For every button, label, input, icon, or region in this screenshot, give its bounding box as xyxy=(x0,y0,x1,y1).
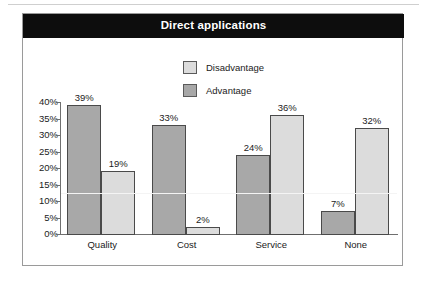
legend-label-advantage: Advantage xyxy=(206,85,251,96)
bar-value-label: 32% xyxy=(347,115,397,126)
white-gridline xyxy=(61,193,397,194)
bar-value-label: 19% xyxy=(93,158,143,169)
bar-value-label: 7% xyxy=(313,198,363,209)
bar-service-advantage xyxy=(236,155,270,235)
bar-none-disadvantage xyxy=(355,128,389,235)
bar-service-disadvantage xyxy=(270,115,304,235)
bar-none-advantage xyxy=(321,211,355,235)
y-axis-line xyxy=(60,102,61,235)
legend-swatch-advantage-icon xyxy=(183,84,197,97)
bar-value-label: 33% xyxy=(144,112,194,123)
legend-label-disadvantage: Disadvantage xyxy=(206,62,264,73)
legend-entry-disadvantage: Disadvantage xyxy=(183,58,303,77)
category-label-cost: Cost xyxy=(145,239,230,250)
legend-swatch-disadvantage-icon xyxy=(183,61,197,74)
bar-value-label: 2% xyxy=(178,214,228,225)
category-label-none: None xyxy=(314,239,399,250)
plot-area: Disadvantage Advantage 0%5%10%15%20%25%3… xyxy=(0,0,427,286)
chart-legend: Disadvantage Advantage xyxy=(183,58,303,104)
bar-value-label: 24% xyxy=(228,142,278,153)
category-label-service: Service xyxy=(229,239,314,250)
bar-value-label: 36% xyxy=(262,102,312,113)
legend-entry-advantage: Advantage xyxy=(183,81,303,100)
bar-value-label: 39% xyxy=(59,92,109,103)
category-label-quality: Quality xyxy=(60,239,145,250)
bar-cost-disadvantage xyxy=(186,227,220,235)
bar-quality-advantage xyxy=(67,105,101,235)
bar-quality-disadvantage xyxy=(101,171,135,235)
